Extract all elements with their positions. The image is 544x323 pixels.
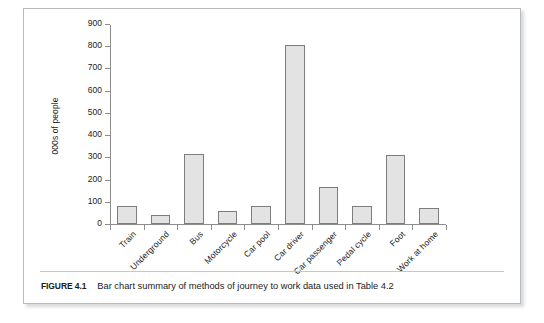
x-axis-label-pedal-cycle: Pedal cycle: [334, 229, 373, 268]
x-axis-tick: [446, 225, 447, 230]
y-axis-tick-label: 100: [88, 196, 102, 206]
x-axis-tick: [211, 225, 212, 230]
y-axis-tick-label: 500: [88, 107, 102, 117]
bar-chart: 000s of people 0100200300400500600700800…: [24, 9, 522, 267]
figure-number: FIGURE 4.1: [41, 281, 86, 291]
y-axis-tick: 700: [105, 68, 110, 69]
y-axis-tick-label: 600: [88, 85, 102, 95]
x-axis-label-bus: Bus: [187, 229, 205, 247]
x-axis-label-car-driver: Car driver: [272, 229, 306, 263]
y-axis-line: [110, 25, 111, 225]
figure-caption-text: Bar chart summary of methods of journey …: [97, 281, 393, 291]
x-axis-label-motorcycle: Motorcycle: [202, 229, 239, 266]
y-axis-tick: 400: [105, 135, 110, 136]
x-axis-tick: [345, 225, 346, 230]
y-axis-tick-label: 800: [88, 40, 102, 50]
x-axis-tick: [278, 225, 279, 230]
x-axis-tick: [412, 225, 413, 230]
bar-motorcycle: [218, 211, 237, 224]
y-axis-tick: 900: [105, 24, 110, 25]
y-axis-tick-label: 900: [88, 18, 102, 28]
caption-divider: [40, 271, 504, 272]
figure-page: 000s of people 0100200300400500600700800…: [0, 0, 544, 323]
y-axis-tick-label: 700: [88, 62, 102, 72]
bar-car-driver: [285, 45, 304, 224]
x-axis-tick: [312, 225, 313, 230]
bar-underground: [151, 215, 170, 224]
x-axis-label-car-pool: Car pool: [242, 229, 272, 259]
y-axis-tick: 200: [105, 180, 110, 181]
bar-train: [117, 206, 136, 224]
x-axis-tick: [244, 225, 245, 230]
bar-work-at-home: [419, 208, 438, 224]
bar-car-pool: [251, 206, 270, 224]
y-axis-tick: 500: [105, 113, 110, 114]
bar-pedal-cycle: [352, 206, 371, 224]
bar-bus: [184, 154, 203, 224]
y-axis-tick-label: 300: [88, 151, 102, 161]
y-axis-tick-label: 400: [88, 129, 102, 139]
y-axis-tick-label: 0: [97, 218, 102, 228]
x-axis-label-foot: Foot: [387, 229, 406, 248]
figure-frame: 000s of people 0100200300400500600700800…: [23, 8, 521, 304]
bar-car-passenger: [319, 187, 338, 224]
y-axis-tick: 800: [105, 46, 110, 47]
plot-area: 0100200300400500600700800900TrainUndergr…: [110, 25, 446, 225]
bar-foot: [386, 155, 405, 224]
x-axis-tick: [177, 225, 178, 230]
x-axis-tick: [379, 225, 380, 230]
y-axis-tick-label: 200: [88, 174, 102, 184]
y-axis-title: 000s of people: [50, 71, 60, 181]
x-axis-tick: [110, 225, 111, 230]
y-axis-tick: 300: [105, 157, 110, 158]
figure-caption: FIGURE 4.1Bar chart summary of methods o…: [41, 281, 505, 291]
y-axis-tick: 100: [105, 202, 110, 203]
x-axis-label-train: Train: [117, 229, 138, 250]
y-axis-tick: 600: [105, 91, 110, 92]
x-axis-tick: [144, 225, 145, 230]
